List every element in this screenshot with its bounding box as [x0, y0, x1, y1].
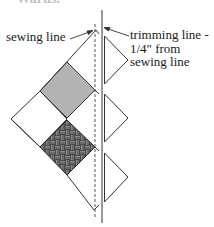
trimming-label-line-1: trimming line - [130, 28, 209, 42]
upper-right-edge [96, 30, 99, 34]
trimming-line-label: trimming line - 1/4" from sewing line [130, 28, 209, 69]
sewing-line-label: sewing line [6, 30, 66, 44]
trimmed-triangle-1 [105, 36, 129, 84]
lower-white-triangle [67, 175, 99, 210]
trimming-label-line-3: sewing line [130, 55, 209, 69]
quilt-trimming-diagram: • • Wards. [0, 0, 214, 227]
trimming-label-line-2: 1/4" from [130, 42, 209, 56]
trimmed-triangle-3 [105, 153, 129, 202]
trimmed-triangle-2 [105, 94, 129, 142]
trimming-arrowhead-icon [104, 28, 110, 32]
